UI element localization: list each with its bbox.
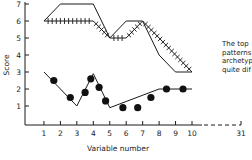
x-tick-label: 6 bbox=[124, 129, 129, 138]
x-tick-label: 8 bbox=[157, 129, 162, 138]
data-point bbox=[119, 104, 126, 111]
side-caption-line: patterns bbox=[222, 49, 252, 58]
y-axis-label: Score bbox=[2, 54, 11, 75]
data-point bbox=[50, 77, 57, 84]
x-tick-label: 2 bbox=[58, 129, 63, 138]
y-tick-label: 2 bbox=[16, 85, 21, 94]
side-caption-line: quite dif bbox=[222, 66, 252, 75]
y-tick-label: 3 bbox=[16, 68, 21, 77]
data-point bbox=[179, 85, 186, 92]
data-point bbox=[147, 94, 154, 101]
x-tick-label: 10 bbox=[187, 129, 197, 138]
side-caption-line: The top bbox=[222, 40, 252, 49]
side-caption: The top patterns archetyp quite dif bbox=[222, 40, 252, 74]
data-point bbox=[163, 85, 170, 92]
y-tick-label: 4 bbox=[16, 51, 21, 60]
y-tick-label: 7 bbox=[16, 0, 21, 9]
chart-marks bbox=[44, 4, 192, 111]
x-tick-label: 7 bbox=[140, 129, 145, 138]
data-point bbox=[67, 94, 74, 101]
data-point bbox=[96, 84, 103, 91]
x-tick-label: 1 bbox=[42, 129, 47, 138]
x-tick-label: 9 bbox=[173, 129, 178, 138]
x-tick-label: 4 bbox=[91, 129, 96, 138]
y-tick-label: 1 bbox=[16, 102, 21, 111]
data-point bbox=[82, 89, 89, 96]
data-point bbox=[134, 104, 141, 111]
x-axis-label: Variable number bbox=[87, 144, 150, 153]
side-caption-line: archetyp bbox=[222, 57, 252, 66]
x-tick-label: 31 bbox=[236, 129, 246, 138]
line-chart: 12345671234567891031 Variable number Sco… bbox=[0, 0, 252, 160]
x-tick-label: 5 bbox=[107, 129, 112, 138]
x-tick-label: 3 bbox=[74, 129, 79, 138]
data-point bbox=[102, 97, 109, 104]
data-point bbox=[87, 75, 94, 82]
y-tick-label: 5 bbox=[16, 34, 21, 43]
y-tick-label: 6 bbox=[16, 17, 21, 26]
